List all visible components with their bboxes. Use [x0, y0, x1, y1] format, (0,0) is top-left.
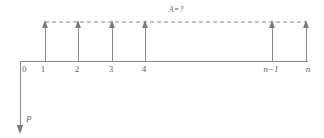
tick-label-n: n: [306, 64, 311, 74]
up-arrow-icon-n: [303, 20, 309, 28]
diagram-canvas: A=? 0 1 2 3 4 n−1 n P: [0, 0, 324, 138]
span-label: A=?: [168, 5, 183, 14]
up-arrow-icon-n-minus-1: [269, 20, 275, 28]
up-arrow-icon-1: [42, 20, 48, 28]
tick-label-n-minus-1: n−1: [263, 64, 278, 74]
tick-label-2: 2: [75, 64, 80, 74]
vertical-axis-label: P: [25, 114, 32, 124]
beam-load-diagram: A=? 0 1 2 3 4 n−1 n P: [0, 0, 324, 138]
up-arrow-icon-4: [142, 20, 148, 28]
tick-label-3: 3: [109, 64, 114, 74]
up-arrow-icon-2: [75, 20, 81, 28]
up-arrow-icon-3: [109, 20, 115, 28]
tick-label-0: 0: [22, 64, 27, 74]
tick-label-4: 4: [142, 64, 147, 74]
down-arrow-icon: [17, 125, 23, 134]
tick-label-1: 1: [41, 64, 46, 74]
